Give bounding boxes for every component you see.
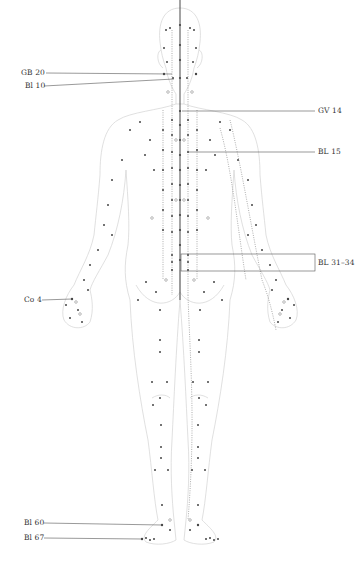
bl10-leader-line bbox=[44, 79, 174, 86]
co4-leader-line bbox=[42, 299, 72, 300]
label-bl31-34: BL 31–34 bbox=[318, 258, 355, 267]
callout-lines bbox=[42, 73, 315, 539]
label-bl15: BL 15 bbox=[318, 147, 341, 156]
label-co4: Co 4 bbox=[24, 295, 42, 304]
label-bl10: Bl 10 bbox=[25, 81, 45, 90]
label-bl60: Bl 60 bbox=[24, 518, 44, 527]
label-gb20: GB 20 bbox=[21, 68, 45, 77]
gb20-leader-line bbox=[46, 73, 172, 74]
bl60-leader-line bbox=[44, 523, 162, 525]
label-bl67: Bl 67 bbox=[24, 533, 44, 542]
label-gv14: GV 14 bbox=[318, 106, 342, 115]
acupuncture-body-figure bbox=[0, 0, 364, 580]
bl31-34-callout-box bbox=[181, 254, 315, 271]
bl67-leader-line bbox=[44, 538, 142, 539]
